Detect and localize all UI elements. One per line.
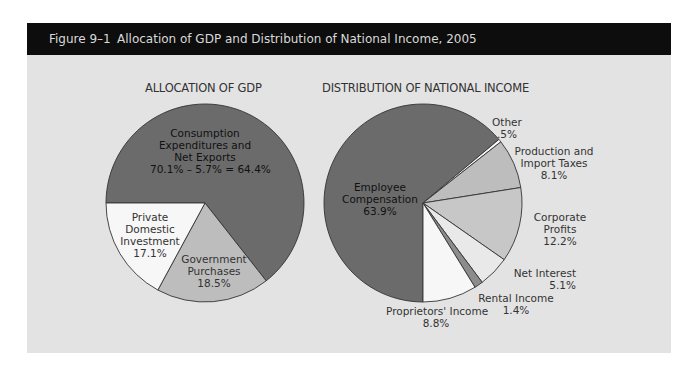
label-other: Other .5% [492, 116, 522, 140]
label-production-taxes: Production and Import Taxes 8.1% [508, 145, 600, 181]
label-proprietors-income: Proprietors' Income 8.8% [386, 305, 486, 329]
label-private-investment: Private Domestic Investment 17.1% [120, 211, 180, 259]
label-employee-compensation: Employee Compensation 63.9% [340, 181, 420, 217]
label-government: Government Purchases 18.5% [176, 253, 252, 289]
income-pie-title: DISTRIBUTION OF NATIONAL INCOME [322, 81, 529, 95]
label-net-interest: Net Interest 5.1% [502, 267, 576, 291]
gdp-pie-title: ALLOCATION OF GDP [145, 81, 262, 95]
label-corporate-profits: Corporate Profits 12.2% [520, 211, 600, 247]
label-consumption: Consumption Expenditures and Net Exports… [150, 127, 260, 175]
